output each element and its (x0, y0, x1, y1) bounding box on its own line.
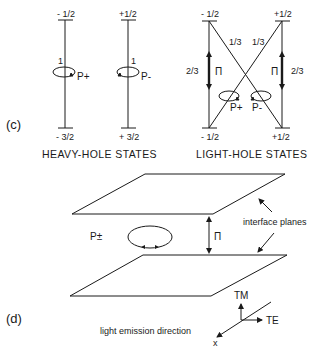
tm-label: TM (234, 290, 248, 301)
lh-left-diagonal-strength: 1/3 (229, 37, 242, 47)
leader-line-upper (259, 199, 272, 212)
arrow-down-icon (206, 248, 212, 254)
interface-planes (70, 174, 287, 337)
arrowhead-icon (70, 73, 73, 76)
diagram-canvas: - 1/2 - 3/2 1 P+ +1/2 + 3/2 1 P- HEAVY-H… (0, 0, 322, 349)
upper-interface-plane (72, 174, 285, 214)
circular-polarization-icon (128, 226, 172, 248)
lower-interface-plane (70, 255, 287, 296)
lh-p-plus-label: P+ (230, 102, 243, 113)
light-emission-label: light emission direction (100, 326, 191, 336)
panel-d-label: (d) (6, 311, 22, 326)
heavy-hole-transitions (53, 20, 139, 128)
lh-right-bottom-label: +1/2 (272, 132, 290, 142)
arrow-down-icon (206, 84, 212, 90)
lh-left-pi-label: Π (215, 66, 222, 77)
leader-line-lower (258, 233, 274, 252)
hh-left-polarization: P+ (77, 71, 90, 82)
heavy-hole-caption: HEAVY-HOLE STATES (42, 148, 157, 160)
light-hole-caption: LIGHT-HOLE STATES (196, 148, 307, 160)
te-label: TE (266, 315, 279, 326)
arrow-up-icon (206, 51, 212, 57)
hh-left-strength: 1 (58, 56, 63, 66)
interface-planes-label: interface planes (243, 217, 307, 227)
x-label: x (213, 338, 218, 348)
lh-left-bottom-label: - 1/2 (201, 132, 219, 142)
hh-left-bottom-label: - 3/2 (56, 132, 74, 142)
arrowhead-icon (141, 245, 145, 249)
hh-left-top-label: - 1/2 (57, 9, 75, 19)
lh-right-pi-label: Π (271, 66, 278, 77)
hh-right-polarization: P- (141, 71, 151, 82)
lh-right-top-label: +1/2 (274, 9, 292, 19)
lh-left-vertical-strength: 2/3 (186, 66, 199, 76)
lh-p-minus-label: P- (252, 102, 262, 113)
lh-right-diagonal-strength: 1/3 (252, 37, 265, 47)
arrowhead-icon (118, 73, 121, 76)
hh-right-top-label: +1/2 (119, 9, 137, 19)
p-plus-minus-label: P± (90, 231, 103, 242)
hh-right-strength: 1 (131, 56, 136, 66)
pi-label: Π (214, 231, 221, 242)
panel-c-label: (c) (6, 117, 21, 132)
hh-right-bottom-label: + 3/2 (119, 132, 139, 142)
arrow-down-icon (279, 84, 285, 90)
arrow-up-icon (206, 216, 212, 222)
arrow-up-icon (279, 51, 285, 57)
lh-right-vertical-strength: 2/3 (291, 66, 304, 76)
arrowhead-icon (155, 245, 159, 249)
x-axis-arrow (217, 302, 271, 337)
lh-left-top-label: - 1/2 (201, 9, 219, 19)
